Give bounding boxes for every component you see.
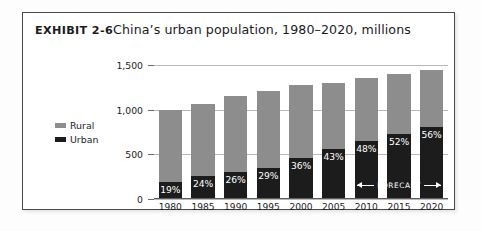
x-axis-label: 2000 bbox=[283, 202, 319, 212]
x-axis-label: 2010 bbox=[349, 202, 385, 212]
bar-segment-urban: 48% bbox=[355, 141, 379, 199]
gridline bbox=[154, 199, 448, 200]
y-axis-tick bbox=[148, 65, 154, 66]
bar-segment-rural bbox=[387, 74, 411, 134]
x-axis-label: 1985 bbox=[185, 202, 221, 212]
legend-label-urban: Urban bbox=[70, 134, 98, 145]
bar-segment-rural bbox=[420, 70, 444, 127]
bar-value-label: 36% bbox=[289, 160, 313, 171]
bar-segment-rural bbox=[257, 91, 281, 167]
bar-segment-rural bbox=[289, 85, 313, 158]
legend-item-urban: Urban bbox=[55, 133, 98, 145]
bar-value-label: 19% bbox=[159, 184, 183, 195]
bar-segment-urban: 26% bbox=[224, 172, 248, 199]
y-axis-label: 0 bbox=[137, 194, 143, 205]
bar-segment-rural bbox=[322, 83, 346, 149]
bar-value-label: 24% bbox=[191, 178, 215, 189]
y-axis-label: 500 bbox=[125, 149, 143, 160]
bar-segment-urban: 43% bbox=[322, 149, 346, 199]
chart-legend: Rural Urban bbox=[55, 119, 98, 147]
bar-segment-urban: 29% bbox=[257, 168, 281, 199]
bar-segment-urban: 19% bbox=[159, 182, 183, 199]
y-axis-tick bbox=[148, 199, 154, 200]
forecast-label: FORECAST bbox=[374, 181, 424, 190]
page-background: EXHIBIT 2-6China’s urban population, 198… bbox=[0, 0, 481, 231]
bar-segment-rural bbox=[191, 104, 215, 176]
forecast-annotation: FORECAST bbox=[357, 180, 442, 190]
exhibit-tag: EXHIBIT 2-6 bbox=[35, 24, 113, 37]
bar-segment-rural bbox=[355, 78, 379, 141]
y-axis-label: 1,000 bbox=[116, 104, 143, 115]
bar-column: 19%1980 bbox=[159, 110, 183, 199]
legend-swatch-rural-icon bbox=[55, 123, 66, 128]
legend-item-rural: Rural bbox=[55, 119, 98, 131]
x-axis-line bbox=[154, 198, 448, 199]
gridline bbox=[154, 65, 448, 66]
bar-column: 43%2005 bbox=[322, 83, 346, 199]
exhibit-panel: EXHIBIT 2-6China’s urban population, 198… bbox=[22, 12, 455, 210]
x-axis-label: 1980 bbox=[153, 202, 189, 212]
bar-column: 24%1985 bbox=[191, 104, 215, 199]
bar-segment-urban: 24% bbox=[191, 176, 215, 199]
y-axis-label: 1,500 bbox=[116, 60, 143, 71]
bar-value-label: 43% bbox=[322, 151, 346, 162]
bar-column: 29%1995 bbox=[257, 91, 281, 199]
y-axis-tick bbox=[148, 154, 154, 155]
bar-value-label: 29% bbox=[257, 170, 281, 181]
bar-segment-rural bbox=[159, 110, 183, 182]
y-axis-tick bbox=[148, 110, 154, 111]
forecast-arrow-right-icon bbox=[424, 185, 442, 186]
x-axis-label: 2015 bbox=[381, 202, 417, 212]
bar-value-label: 48% bbox=[355, 143, 379, 154]
bar-column: 36%2000 bbox=[289, 85, 313, 199]
bar-value-label: 52% bbox=[387, 136, 411, 147]
x-axis-label: 2020 bbox=[414, 202, 450, 212]
bar-value-label: 26% bbox=[224, 174, 248, 185]
bar-segment-urban: 36% bbox=[289, 158, 313, 199]
forecast-arrow-left-icon bbox=[357, 185, 375, 186]
bar-value-label: 56% bbox=[420, 129, 444, 140]
exhibit-description: China’s urban population, 1980–2020, mil… bbox=[113, 22, 411, 37]
x-axis-label: 2005 bbox=[316, 202, 352, 212]
x-axis-label: 1990 bbox=[218, 202, 254, 212]
x-axis-label: 1995 bbox=[251, 202, 287, 212]
legend-swatch-urban-icon bbox=[55, 137, 66, 142]
page-title: EXHIBIT 2-6China’s urban population, 198… bbox=[35, 22, 411, 37]
chart-plot-area: 05001,0001,500 19%198024%198526%199029%1… bbox=[136, 53, 448, 201]
bar-segment-rural bbox=[224, 96, 248, 172]
legend-label-rural: Rural bbox=[70, 120, 94, 131]
bar-column: 26%1990 bbox=[224, 96, 248, 199]
